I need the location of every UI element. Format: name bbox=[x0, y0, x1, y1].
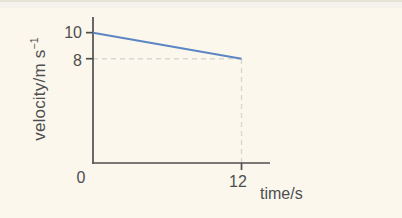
y-tick-label-10: 10 bbox=[50, 23, 82, 42]
textbook-figure-page: velocity/m s−1 10 8 0 12 time/s bbox=[0, 0, 402, 218]
x-axis-label: time/s bbox=[260, 184, 303, 203]
y-axis-label-superscript: −1 bbox=[28, 37, 40, 49]
y-tick-label-8: 8 bbox=[50, 51, 82, 70]
y-axis-label-text: velocity/m s bbox=[30, 50, 49, 141]
x-tick-label-12: 12 bbox=[222, 172, 254, 191]
x-origin-label: 0 bbox=[66, 168, 96, 187]
y-axis-label: velocity/m s−1 bbox=[28, 4, 50, 174]
data-line-velocity bbox=[93, 33, 242, 59]
